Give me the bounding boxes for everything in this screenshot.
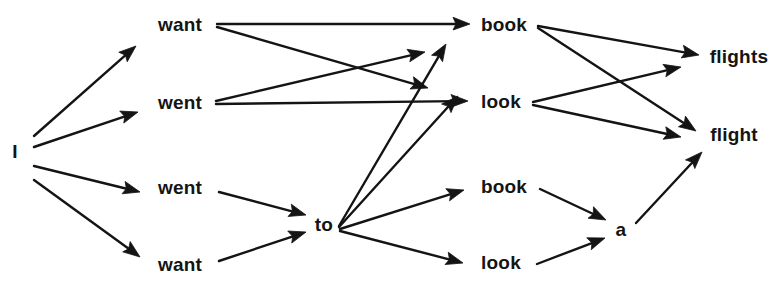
lattice-edge [219, 192, 306, 216]
word-lattice-diagram: Iwantwentwentwanttobooklookbooklookaflig… [0, 0, 781, 296]
lattice-edge [538, 26, 699, 58]
lattice-node-a: a [616, 220, 627, 239]
lattice-edge [540, 189, 606, 220]
lattice-node-want_2: want [158, 255, 202, 274]
lattice-edge [216, 94, 468, 107]
lattice-edge [219, 231, 306, 261]
edge-shaft [339, 53, 441, 226]
edge-shaft [219, 192, 296, 212]
edge-shaft [339, 104, 451, 227]
edge-shaft [34, 166, 130, 189]
lattice-edge [34, 111, 138, 147]
lattice-edge [217, 17, 470, 30]
lattice-edge [533, 64, 681, 102]
edge-shaft [34, 115, 128, 147]
lattice-node-went_2: went [158, 178, 202, 197]
edge-shaft [34, 180, 131, 251]
lattice-node-went_1: went [158, 93, 202, 112]
lattice-edge [339, 96, 458, 227]
edge-shaft [538, 26, 689, 53]
edge-shaft [533, 69, 671, 102]
edge-shaft [340, 193, 454, 229]
edge-shaft [216, 101, 457, 104]
lattice-node-want_1: want [158, 15, 202, 34]
arrowhead-icon [432, 44, 446, 62]
edge-shaft [34, 53, 128, 136]
lattice-edge [533, 105, 681, 139]
lattice-edge [34, 166, 140, 194]
lattice-edges-layer [0, 0, 781, 296]
arrowhead-icon [453, 17, 470, 30]
lattice-node-book_2: book [481, 177, 527, 196]
edge-shaft [533, 105, 671, 135]
lattice-node-i: I [12, 142, 17, 161]
edge-shaft [340, 231, 453, 260]
edge-shaft [540, 189, 596, 216]
lattice-node-book_1: book [481, 15, 527, 34]
lattice-node-to: to [315, 215, 333, 234]
edge-shaft [216, 54, 415, 101]
lattice-edge [538, 28, 696, 131]
arrowhead-icon [678, 116, 696, 131]
lattice-edge [340, 231, 463, 265]
lattice-edge [537, 238, 605, 264]
lattice-node-look_1: look [481, 92, 521, 111]
lattice-node-flight: flight [710, 125, 758, 144]
arrowhead-icon [123, 242, 140, 257]
edge-shaft [219, 235, 296, 261]
lattice-node-flights: flights [710, 47, 768, 66]
edge-shaft [537, 242, 595, 264]
lattice-edge [636, 152, 702, 223]
edge-shaft [636, 160, 695, 223]
lattice-node-look_2: look [481, 253, 521, 272]
lattice-edge [339, 44, 446, 226]
lattice-edge [34, 46, 136, 136]
